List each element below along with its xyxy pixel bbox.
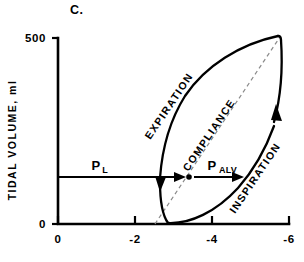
x-axis-label-0: 0 xyxy=(55,233,62,245)
y-axis-title: TIDAL VOLUME, ml xyxy=(6,80,18,201)
y-axis-label-0: 0 xyxy=(39,218,46,230)
pl-label-subscript: L xyxy=(102,165,108,175)
inspiration-arrow-head xyxy=(271,104,282,121)
pressure-volume-loop-chart: C. 500 0 0 -2 -4 -6 TIDAL VOLUME, ml EXP… xyxy=(0,0,304,262)
palv-label-subscript: ALV xyxy=(219,165,237,175)
axis-frame xyxy=(58,38,289,224)
loop-apex xyxy=(278,36,281,40)
y-axis-label-500: 500 xyxy=(25,32,46,44)
x-axis-label-minus2: -2 xyxy=(129,233,140,245)
pl-label-main: P xyxy=(91,158,100,173)
x-axis-label-minus6: -6 xyxy=(283,233,294,245)
figure-panel-c: C. 500 0 0 -2 -4 -6 TIDAL VOLUME, ml EXP… xyxy=(0,0,304,262)
palv-label-main: P xyxy=(207,158,216,173)
expiration-arrow-head xyxy=(155,176,166,192)
midpoint-dot xyxy=(186,174,192,180)
x-axis-label-minus4: -4 xyxy=(206,233,217,245)
panel-label: C. xyxy=(70,3,84,17)
